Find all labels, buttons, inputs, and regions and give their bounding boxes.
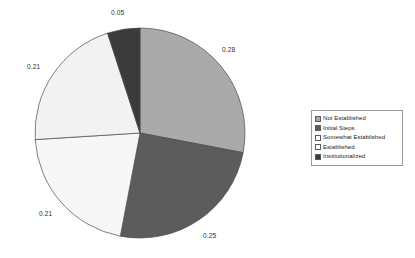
legend-item-label: Somewhat Established xyxy=(323,134,385,141)
pie-value-label: 0.21 xyxy=(27,63,40,71)
legend-item-label: Not Established xyxy=(323,115,366,122)
legend-item: Not Established xyxy=(315,114,399,123)
legend-item-label: Established xyxy=(323,144,355,151)
pie-slice-group xyxy=(35,28,245,238)
legend-item-label: Institutionalized xyxy=(323,153,365,160)
pie-chart-canvas xyxy=(0,0,300,258)
pie-value-label: 0.25 xyxy=(203,232,216,240)
legend-item-label: Initial Steps xyxy=(323,125,355,132)
legend-swatch-icon xyxy=(315,116,321,122)
legend-item: Established xyxy=(315,143,399,152)
legend-swatch-icon xyxy=(315,125,321,131)
legend-item: Initial Steps xyxy=(315,124,399,133)
legend-item: Institutionalized xyxy=(315,152,399,161)
pie-value-label: 0.05 xyxy=(111,9,124,17)
pie-chart-figure: 0.280.250.210.210.05 Not EstablishedInit… xyxy=(0,0,415,258)
pie-value-label: 0.21 xyxy=(39,210,52,218)
legend-item: Somewhat Established xyxy=(315,133,399,142)
legend-swatch-icon xyxy=(315,154,321,160)
pie-value-label: 0.28 xyxy=(222,46,235,54)
legend-swatch-icon xyxy=(315,144,321,150)
chart-legend: Not EstablishedInitial StepsSomewhat Est… xyxy=(311,110,403,166)
legend-swatch-icon xyxy=(315,135,321,141)
